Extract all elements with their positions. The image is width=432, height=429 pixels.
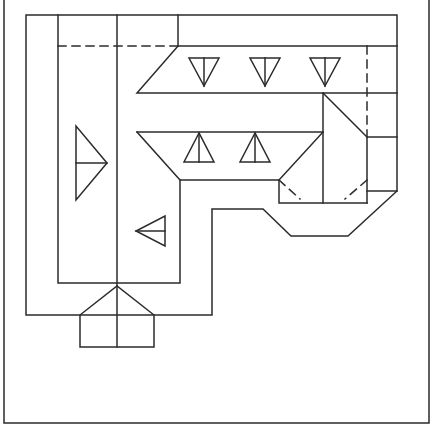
slope-arrows	[76, 58, 340, 246]
upper-wing-hip	[137, 46, 397, 93]
hidden-valley-right	[345, 180, 367, 199]
slope-arrow-up-1-icon	[184, 133, 214, 162]
roof-lines	[26, 15, 397, 347]
roof-plan-diagram	[0, 0, 432, 429]
slope-arrow-down-2-icon	[250, 58, 280, 86]
dormer-right-hip	[323, 93, 367, 203]
slope-arrow-down-3-icon	[310, 58, 340, 86]
roof-outline-main	[26, 15, 397, 315]
hidden-valley-left	[279, 180, 300, 199]
slope-arrow-left-1-icon	[136, 216, 165, 246]
slope-arrow-right-1-icon	[76, 126, 107, 200]
slope-arrow-down-1-icon	[189, 58, 219, 86]
slope-arrow-up-2-icon	[240, 133, 270, 162]
upper-wing-top-step	[178, 15, 397, 46]
